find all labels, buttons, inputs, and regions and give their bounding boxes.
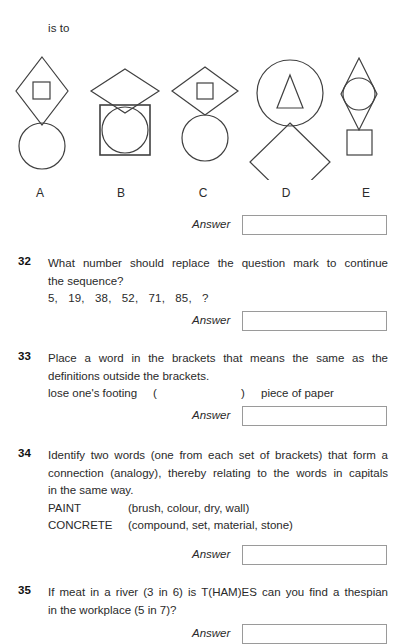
answer-row-figure: Answer	[0, 215, 401, 237]
question-35-number: 35	[18, 584, 31, 596]
small-square-inside-diamond-a	[33, 82, 50, 99]
answer-row-34: Answer	[0, 545, 401, 567]
question-35-body: If meat in a river (3 in 6) is T(HAM)ES …	[48, 584, 388, 619]
answer-input-34[interactable]	[242, 545, 387, 565]
bracket-open-paren: (	[153, 385, 157, 403]
answer-input-figure[interactable]	[242, 215, 387, 235]
question-35-line-1: If meat in a river (3 in 6) is T(HAM)ES …	[48, 584, 388, 602]
pair-2-options: (compound, set, material, stone)	[128, 517, 293, 535]
question-33-line-2: definitions outside the brackets.	[48, 368, 388, 386]
answer-row-35: Answer	[0, 624, 401, 644]
small-square-inside-diamond-c	[197, 83, 213, 99]
option-letter-c: C	[193, 186, 213, 200]
question-34-line-1: Identify two words (one from each set of…	[48, 447, 388, 465]
option-letter-b: B	[111, 186, 131, 200]
pair-1-capital: PAINT	[48, 500, 81, 518]
stem-is-to-text: is to	[48, 22, 70, 34]
question-32-number: 32	[18, 255, 31, 267]
answer-row-33: Answer	[0, 406, 401, 428]
circle-shape-d	[257, 60, 323, 126]
diamond-shape-c	[172, 67, 238, 115]
question-32-line-2: the sequence?	[48, 273, 388, 291]
question-34-line-2: connection (analogy), thereby relating t…	[48, 465, 388, 483]
question-33-line-1: Place a word in the brackets that means …	[48, 350, 388, 368]
question-34-pair-1: PAINT (brush, colour, dry, wall)	[48, 500, 388, 518]
question-32-line-1: What number should replace the question …	[48, 255, 388, 273]
figure-option-e[interactable]	[341, 58, 377, 155]
pair-2-capital: CONCRETE	[48, 517, 113, 535]
answer-input-32[interactable]	[242, 311, 387, 331]
figure-option-a[interactable]	[16, 57, 68, 169]
figure-options-bank	[0, 50, 401, 180]
option-letters-row: A B C D E	[0, 186, 401, 202]
bracket-clue-left: lose one's footing	[48, 385, 137, 403]
circle-shape-a	[19, 123, 65, 169]
answer-label-33: Answer	[192, 409, 230, 421]
answer-label-34: Answer	[192, 548, 230, 560]
question-34-line-3: in the same way.	[48, 482, 388, 500]
question-32-body: What number should replace the question …	[48, 255, 388, 308]
answer-label-35: Answer	[192, 627, 230, 639]
bracket-close-paren: )	[241, 385, 245, 403]
question-33-bracket-line: lose one's footing ( ) piece of paper	[48, 385, 388, 403]
answer-input-33[interactable]	[242, 406, 387, 426]
pair-1-options: (brush, colour, dry, wall)	[128, 500, 249, 518]
figure-option-d[interactable]	[250, 60, 330, 180]
question-34-pair-2: CONCRETE (compound, set, material, stone…	[48, 517, 388, 535]
figure-option-c[interactable]	[172, 67, 238, 161]
circle-shape-c	[182, 115, 228, 161]
option-letter-e: E	[356, 186, 376, 200]
answer-input-35[interactable]	[242, 624, 387, 644]
diamond-shape-e	[341, 58, 377, 130]
question-33-body: Place a word in the brackets that means …	[48, 350, 388, 403]
answer-label: Answer	[192, 218, 230, 230]
figure-option-b[interactable]	[91, 69, 159, 155]
option-letter-d: D	[276, 186, 296, 200]
option-letter-a: A	[30, 186, 50, 200]
answer-label-32: Answer	[192, 314, 230, 326]
circle-inside-diamond-e	[343, 78, 375, 110]
diamond-shape-a	[16, 57, 68, 125]
question-35-line-2: in the workplace (5 in 7)?	[48, 602, 388, 620]
question-34-number: 34	[18, 447, 31, 459]
question-34-body: Identify two words (one from each set of…	[48, 447, 388, 535]
circle-inside-square-b	[102, 107, 148, 153]
small-square-shape-e	[347, 130, 372, 155]
answer-row-32: Answer	[0, 311, 401, 333]
triangle-inside-circle-d	[277, 75, 303, 108]
question-32-sequence: 5, 19, 38, 52, 71, 85, ?	[48, 290, 388, 308]
diamond-shape-d	[250, 123, 330, 180]
question-33-number: 33	[18, 350, 31, 362]
bracket-clue-right: piece of paper	[261, 385, 334, 403]
